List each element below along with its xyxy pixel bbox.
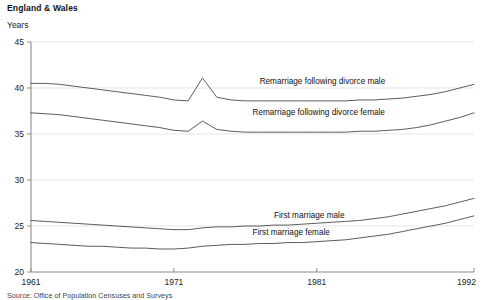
y-tick-label-35: 35 [15,129,25,139]
y-tick-label-25: 25 [15,221,25,231]
series-label-0: Remarriage following divorce male [260,77,386,86]
x-tick-label-1971: 1971 [164,277,183,287]
series-line-0 [31,78,474,101]
y-tick-label-30: 30 [15,175,25,185]
series-line-2 [31,198,474,229]
y-tick-label-45: 45 [15,37,25,47]
y-tick-label-40: 40 [15,83,25,93]
source-note: Source: Office of Population Censuses an… [7,291,172,300]
x-tick-label-1981: 1981 [307,277,326,287]
y-axis-tick-labels: 202530354045 [15,37,25,277]
axis-ticks [27,42,474,272]
x-tick-label-1992: 1992 [457,277,476,287]
chart-container: England & Wales Years 202530354045 19611… [0,0,484,300]
chart-axes [31,42,474,272]
x-axis-tick-labels: 1961197119811992 [22,277,477,287]
y-tick-label-20: 20 [15,267,25,277]
series-label-2: First marriage male [274,211,345,220]
data-series-lines [31,78,474,249]
series-label-1: Remarriage following divorce female [253,108,386,117]
gridlines [31,42,474,226]
line-chart-plot: 202530354045 1961197119811992 Remarriage… [0,0,484,300]
series-label-3: First marriage female [253,228,331,237]
x-tick-label-1961: 1961 [22,277,41,287]
